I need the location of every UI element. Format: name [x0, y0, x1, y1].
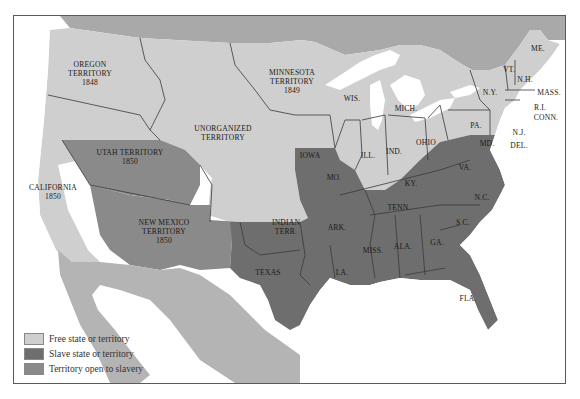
- label-ala: ALA.: [394, 242, 412, 251]
- label-oregon-territory: OREGONTERRITORY1848: [68, 60, 112, 87]
- label-md: MD.: [480, 139, 495, 148]
- label-wis: WIS.: [344, 94, 361, 103]
- label-unorganized-territory: UNORGANIZEDTERRITORY: [194, 124, 251, 142]
- label-iowa: IOWA: [300, 151, 321, 160]
- label-mich: MICH.: [395, 104, 418, 113]
- legend-item-slave: Slave state or territory: [24, 346, 143, 361]
- legend-swatch-free: [24, 333, 44, 345]
- label-nh: N.H.: [517, 75, 533, 84]
- label-mo: MO.: [327, 173, 342, 182]
- label-del: DEL.: [510, 141, 527, 150]
- label-conn: CONN.: [534, 113, 558, 122]
- label-nj: N.J.: [512, 128, 525, 137]
- label-sc: S.C.: [456, 218, 470, 227]
- label-la: LA.: [336, 268, 349, 277]
- label-vt: VT.: [503, 65, 515, 74]
- label-texas: TEXAS: [255, 268, 280, 277]
- label-california: CALIFORNIA1850: [29, 183, 77, 201]
- label-va: VA.: [459, 163, 472, 172]
- legend-label-free: Free state or territory: [49, 334, 129, 344]
- label-fla: FLA.: [459, 294, 476, 303]
- label-new-mexico-territory: NEW MEXICOTERRITORY1850: [138, 218, 189, 245]
- legend-item-open: Territory open to slavery: [24, 361, 143, 376]
- label-ark: ARK.: [328, 223, 347, 232]
- legend-swatch-open: [24, 363, 44, 375]
- label-ohio: OHIO: [416, 138, 436, 147]
- legend-label-slave: Slave state or territory: [49, 349, 134, 359]
- label-miss: MISS.: [363, 246, 384, 255]
- label-indian-territory: INDIANTERR.: [272, 218, 300, 236]
- label-utah-territory: UTAH TERRITORY1850: [96, 148, 163, 166]
- legend-label-open: Territory open to slavery: [49, 364, 143, 374]
- label-ky: KY.: [405, 179, 418, 188]
- map-legend: Free state or territory Slave state or t…: [24, 331, 143, 376]
- label-me: ME.: [531, 44, 545, 53]
- label-ga: GA.: [430, 238, 443, 247]
- label-minnesota-territory: MINNESOTATERRITORY1849: [269, 68, 315, 95]
- label-nc: N.C.: [474, 193, 489, 202]
- legend-item-free: Free state or territory: [24, 331, 143, 346]
- label-ny: N.Y.: [483, 88, 498, 97]
- label-ind: IND.: [386, 147, 402, 156]
- label-ill: ILL.: [361, 151, 376, 160]
- legend-swatch-slave: [24, 348, 44, 360]
- label-pa: PA.: [470, 121, 482, 130]
- label-ri: R.I.: [534, 103, 546, 112]
- label-tenn: TENN.: [387, 203, 410, 212]
- label-mass: MASS.: [537, 88, 561, 97]
